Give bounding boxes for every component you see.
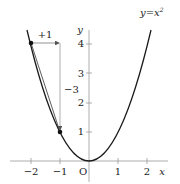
x-axis-label: x [159,166,165,177]
vertical-change-label: −3 [64,84,79,95]
x-tick-label: 1 [115,166,121,177]
y-tick-label: 2 [78,97,84,108]
origin-label: O [79,166,87,177]
point-minus1-1 [58,130,63,135]
point-minus2-4 [29,41,34,46]
y-tick-label: 1 [78,126,84,137]
secant-line [31,43,60,132]
parabola-diagram: −2 −1 O 1 2 x 1 2 3 4 y +1 −3 y=x2 [0,0,180,184]
function-label-base: y=x [139,7,160,18]
x-tick-label: 2 [144,166,150,177]
horizontal-change-label: +1 [38,29,53,40]
x-tick-label: −2 [24,166,39,177]
function-label-exponent: 2 [159,6,164,13]
y-axis-label: y [76,24,83,35]
y-tick-label: 4 [78,38,84,49]
x-tick-label: −1 [53,166,68,177]
function-label: y=x2 [139,6,164,18]
y-tick-label: 3 [78,68,84,79]
